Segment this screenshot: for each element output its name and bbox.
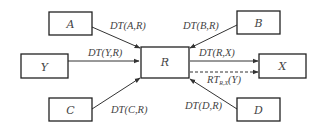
edge-label-a-r: DT(A,R): [109, 20, 146, 32]
node-c-label: C: [66, 104, 75, 117]
node-y: Y: [21, 54, 68, 78]
node-x: X: [259, 54, 306, 78]
trust-diagram: A B Y R X C D DT(A,R) DT(B,R) DT(Y,R) DT…: [0, 0, 323, 133]
edge-label-b-r: DT(B,R): [182, 20, 219, 32]
node-x-label: X: [278, 60, 288, 73]
edge-label-c-r: DT(C,R): [110, 104, 148, 116]
node-c: C: [49, 98, 92, 121]
edge-label-r-x: DT(R,X): [198, 47, 235, 59]
node-r-label: R: [160, 56, 169, 69]
node-b: B: [237, 11, 280, 34]
node-d: D: [237, 98, 280, 121]
edge-label-d-r: DT(D,R): [184, 100, 223, 112]
node-b-label: B: [253, 17, 262, 30]
node-a-label: A: [66, 18, 75, 31]
edge-label-y-r: DT(Y,R): [87, 47, 123, 59]
node-d-label: D: [253, 104, 263, 117]
edge-label-rt: RTR,X(Y): [206, 74, 241, 86]
node-r: R: [141, 47, 189, 78]
node-a: A: [49, 12, 92, 35]
